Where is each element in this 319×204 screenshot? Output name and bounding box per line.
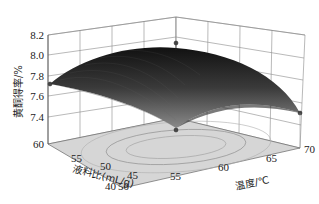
y-tick: 55 — [170, 170, 182, 182]
y-tick: 65 — [266, 152, 278, 164]
z-axis: 8.2 8.0 7.8 7.6 7.4 黄酮得率/% — [12, 29, 48, 144]
z-tick: 8.0 — [30, 49, 44, 61]
y-tick: 60 — [218, 161, 230, 173]
x-tick: 60 — [33, 138, 45, 150]
x-tick: 55 — [71, 152, 83, 164]
z-tick: 7.8 — [30, 70, 44, 82]
z-tick: 7.6 — [30, 90, 44, 102]
y-axis-label: 温度/℃ — [234, 173, 270, 192]
y-tick: 70 — [304, 143, 316, 155]
z-tick: 7.4 — [30, 111, 44, 123]
z-tick: 8.2 — [30, 29, 44, 41]
response-surface-chart: 8.2 8.0 7.8 7.6 7.4 黄酮得率/% 60 55 50 45 4… — [0, 0, 319, 204]
z-axis-label: 黄酮得率/% — [12, 65, 24, 118]
y-tick: 50 — [118, 180, 130, 192]
